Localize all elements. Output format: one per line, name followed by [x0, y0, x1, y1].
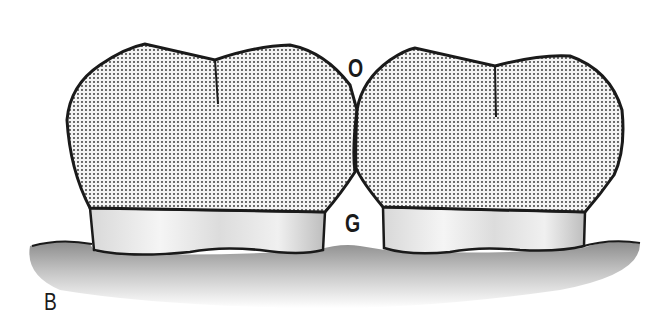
- gingival-label: G: [345, 210, 360, 236]
- panel-label: B: [44, 290, 57, 314]
- tooth-diagram: [0, 0, 660, 333]
- right-root-band: [383, 207, 585, 253]
- left-root-band: [90, 208, 325, 255]
- occlusal-label: O: [348, 55, 363, 81]
- left-crown: [67, 44, 357, 212]
- left-tooth: [67, 44, 357, 255]
- right-crown: [356, 48, 623, 212]
- right-fissure: [495, 66, 496, 117]
- right-tooth: [356, 48, 623, 253]
